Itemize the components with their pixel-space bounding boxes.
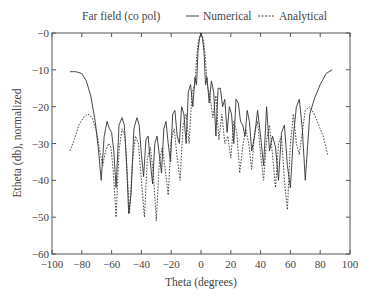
chart-title: Far field (co pol) [82, 10, 160, 23]
legend-label-numerical: Numerical [203, 10, 252, 22]
chart-title-row: Far field (co pol) Numerical Analytical [82, 10, 327, 23]
x-tick-label: 60 [285, 258, 297, 270]
y-axis-label: Etheta (db), normalized [11, 88, 24, 197]
x-tick-label: 40 [255, 258, 267, 270]
y-tick-label: −0 [37, 27, 49, 39]
y-tick-label: −20 [32, 101, 50, 113]
line-chart: Far field (co pol) Numerical Analytical … [0, 0, 371, 301]
y-tick-label: −50 [32, 211, 50, 223]
x-tick-label: 20 [225, 258, 237, 270]
x-axis-label: Theta (degrees) [165, 276, 237, 289]
y-tick-label: −40 [32, 174, 50, 186]
x-tick-label: 100 [342, 258, 359, 270]
y-tick-label: −10 [32, 64, 50, 76]
plot-frame [52, 33, 350, 254]
x-tick-label: 80 [315, 258, 327, 270]
y-tick-label: −60 [32, 248, 50, 260]
x-tick-label: 0 [198, 258, 204, 270]
x-axis-ticks: −100−80−60−40−20020406080100 [41, 33, 359, 270]
series-numerical [70, 33, 332, 214]
x-tick-label: −80 [73, 258, 91, 270]
x-tick-label: −60 [103, 258, 121, 270]
legend-label-analytical: Analytical [279, 10, 327, 23]
y-tick-label: −30 [32, 138, 50, 150]
y-axis-ticks: −0−10−20−30−40−50−60 [32, 27, 350, 260]
series-group [70, 33, 332, 221]
x-tick-label: −40 [133, 258, 151, 270]
x-tick-label: −20 [163, 258, 181, 270]
